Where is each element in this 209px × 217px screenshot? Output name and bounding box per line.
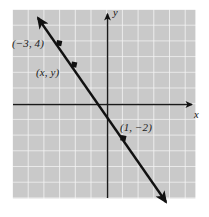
graph-canvas: [0, 0, 209, 217]
point-label-minus3-4: (−3, 4): [12, 38, 44, 49]
coordinate-plane-figure: (−3, 4) (x, y) (1, −2) x y: [0, 0, 209, 217]
y-axis-label: y: [113, 8, 118, 19]
point-label-1-minus2: (1, −2): [120, 122, 152, 133]
x-axis-label: x: [194, 110, 199, 121]
point-marker-x-y: [71, 61, 77, 67]
point-label-x-y: (x, y): [36, 67, 59, 78]
point-marker-1-minus2: [120, 135, 126, 141]
point-marker-minus3-4: [56, 40, 62, 46]
